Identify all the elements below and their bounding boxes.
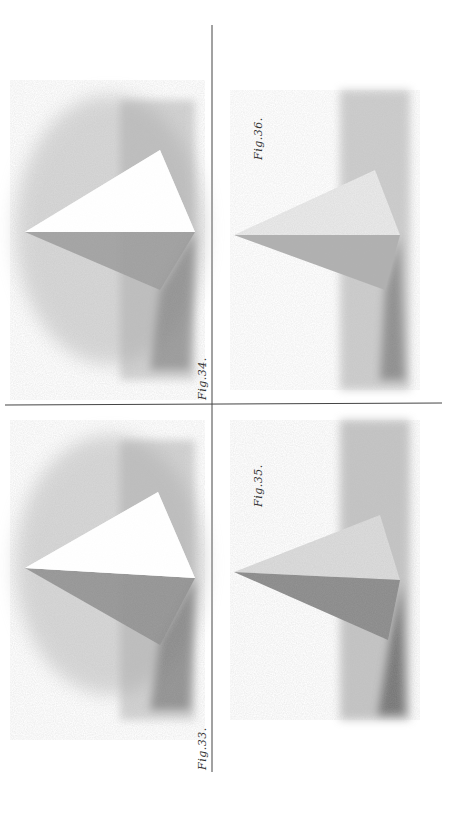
horizontal-divider: [5, 403, 442, 405]
figure-34: [10, 80, 205, 400]
figure-label-33: Fig.33.: [196, 727, 209, 770]
figure-label-35: Fig.35.: [252, 464, 265, 507]
figure-33: [10, 420, 205, 740]
illustration-plate: [0, 0, 468, 814]
figure-label-34: Fig.34.: [196, 357, 209, 400]
figure-label-36: Fig.36.: [252, 117, 265, 160]
